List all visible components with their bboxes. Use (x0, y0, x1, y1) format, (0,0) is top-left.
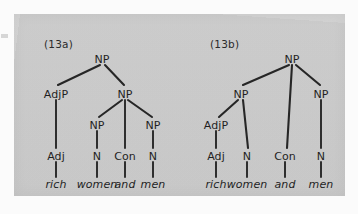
figure-root: (13a) NPAdjPNPNPNPAdjNConN richwomenandm… (0, 0, 358, 214)
tree-branches-13b (180, 14, 345, 196)
edge-root-npleft (243, 65, 289, 85)
node-adj: Adj (47, 150, 65, 163)
edge-root-con (287, 65, 292, 148)
syntax-tree-diagram-panel: (13a) NPAdjPNPNPNPAdjNConN richwomenandm… (14, 14, 345, 196)
syntax-tree-13b: (13b) NPNPNPAdjPAdjNConN richwomenandmen (180, 14, 345, 196)
node-n-women: N (243, 150, 251, 163)
leaf-women: women (227, 178, 268, 191)
node-n-men: N (317, 150, 325, 163)
node-np-left: NP (89, 119, 104, 132)
leaf-and: and (275, 178, 296, 191)
tree-caption-13a: (13a) (44, 38, 73, 50)
syntax-tree-13a: (13a) NPAdjPNPNPNPAdjNConN richwomenandm… (14, 14, 189, 196)
edge-innernp-npleft (99, 100, 122, 117)
node-n-men: N (149, 150, 157, 163)
node-adj: Adj (207, 150, 225, 163)
node-con: Con (274, 150, 296, 163)
edge-innernp-npright (128, 100, 152, 117)
leaf-men: men (141, 178, 166, 191)
node-n-women: N (93, 150, 101, 163)
leaf-men: men (309, 178, 334, 191)
edge-npleft-adjp (219, 100, 238, 117)
node-inner-np: NP (117, 88, 132, 101)
node-np-left: NP (233, 88, 248, 101)
tree-branches-13a (14, 14, 189, 196)
tree-caption-13b: (13b) (210, 38, 239, 50)
leaf-rich: rich (46, 178, 67, 191)
node-adjp: AdjP (204, 119, 228, 132)
leaf-women: women (77, 178, 118, 191)
page-edge-mark (1, 34, 8, 38)
edge-root-adjp (58, 65, 100, 85)
node-con: Con (114, 150, 136, 163)
node-adjp: AdjP (44, 88, 68, 101)
edge-root-npright (296, 65, 320, 85)
node-root-np: NP (94, 53, 109, 66)
node-np-right: NP (145, 119, 160, 132)
node-np-right: NP (313, 88, 328, 101)
leaf-and: and (115, 178, 136, 191)
node-root-np: NP (284, 53, 299, 66)
edge-npleft-n (243, 100, 248, 148)
leaf-rich: rich (206, 178, 227, 191)
edge-root-innernp (105, 65, 124, 85)
